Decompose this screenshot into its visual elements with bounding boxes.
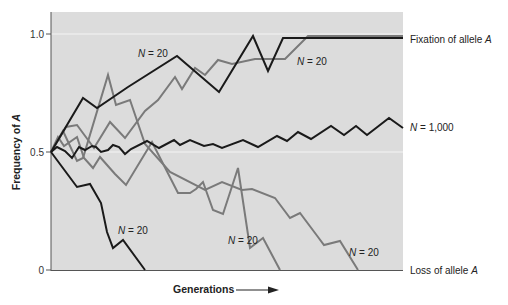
y-axis-title: Frequency of A <box>10 114 22 190</box>
label-fixation: Fixation of allele A <box>410 34 492 45</box>
label-n1000: N = 1,000 <box>410 122 454 133</box>
label-n20-gray-loss-right: N = 20 <box>349 247 379 258</box>
label-n20-gray-fixation: N = 20 <box>297 56 327 67</box>
label-n20-dark-fixation: N = 20 <box>138 48 168 59</box>
x-axis-title: Generations <box>173 283 234 295</box>
label-n20-dark-loss: N = 20 <box>118 225 148 236</box>
y-tick-label-1: 1.0 <box>30 29 44 40</box>
genetic-drift-chart: 1.0 0.5 0 Frequency of A Generations N =… <box>0 0 508 305</box>
label-loss: Loss of allele A <box>410 265 478 276</box>
y-tick-label-0-5: 0.5 <box>30 147 44 158</box>
plot-area <box>51 12 403 271</box>
label-n20-gray-loss-middle: N = 20 <box>228 235 258 246</box>
x-axis-arrow-icon <box>268 287 279 294</box>
y-tick-label-0: 0 <box>38 265 44 276</box>
